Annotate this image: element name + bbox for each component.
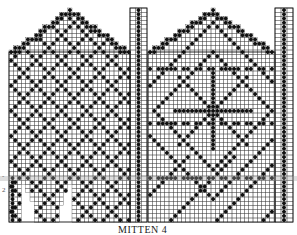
knitting-chart: - 2 MITTEN 4 [0,0,297,235]
side-mark-2: 2 [2,186,6,194]
scan-shadow-band [0,176,297,181]
side-mark-1: - [2,172,4,180]
chart-title: MITTEN 4 [118,224,167,235]
chart-grid [0,0,297,235]
